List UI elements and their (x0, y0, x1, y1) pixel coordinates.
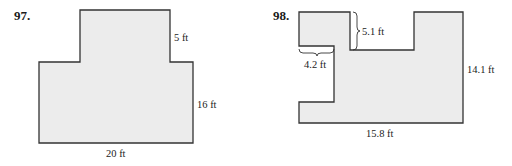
figure-97: 97. 5 ft 16 ft 20 ft (14, 8, 217, 159)
brace-horizontal (299, 49, 334, 56)
figure-number: 98. (273, 8, 289, 23)
label-20ft: 20 ft (106, 148, 126, 159)
label-15-8ft: 15.8 ft (366, 128, 393, 139)
label-14-1ft: 14.1 ft (467, 64, 494, 75)
figure-98: 98. 5.1 ft 4.2 ft 14.1 ft 15.8 ft (273, 8, 494, 139)
label-5ft: 5 ft (174, 32, 188, 43)
figures-canvas: 97. 5 ft 16 ft 20 ft 98. 5.1 ft 4.2 ft 1… (0, 0, 512, 166)
label-16ft: 16 ft (197, 99, 217, 110)
brace-vertical (353, 12, 360, 50)
figure-97-shape (39, 10, 193, 143)
label-5-1ft: 5.1 ft (362, 26, 384, 37)
figure-number: 97. (14, 8, 30, 23)
label-4-2ft: 4.2 ft (304, 59, 326, 70)
